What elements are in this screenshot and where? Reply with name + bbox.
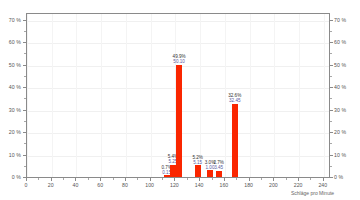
y-tick-minor bbox=[330, 143, 332, 144]
y-tick-right bbox=[330, 155, 333, 156]
y-tick-label-left: 70 % bbox=[9, 17, 21, 23]
bar-rect bbox=[176, 65, 182, 177]
x-tick-minor bbox=[162, 178, 163, 180]
y-tick-right bbox=[330, 177, 333, 178]
x-tick-label: 160 bbox=[220, 182, 229, 188]
x-tick-label: 200 bbox=[269, 182, 278, 188]
y-tick-label-left: 20 % bbox=[9, 129, 21, 135]
y-tick-label-right: 60 % bbox=[334, 39, 346, 45]
bar-rect bbox=[216, 171, 222, 177]
x-tick-minor bbox=[137, 178, 138, 180]
x-tick bbox=[100, 178, 101, 181]
bar: 3.0%1.00 bbox=[207, 170, 213, 177]
x-tick-label: 220 bbox=[294, 182, 303, 188]
bar-label: 2.7%3.45 bbox=[213, 160, 223, 170]
x-tick bbox=[150, 178, 151, 181]
y-tick-minor bbox=[330, 31, 332, 32]
x-tick bbox=[199, 178, 200, 181]
x-tick-minor bbox=[310, 178, 311, 180]
x-tick-label: 180 bbox=[244, 182, 253, 188]
x-tick-minor bbox=[236, 178, 237, 180]
bar-label: 32.6%32.45 bbox=[228, 93, 241, 103]
y-tick-label-right: 30 % bbox=[334, 107, 346, 113]
x-tick bbox=[51, 178, 52, 181]
x-tick-minor bbox=[113, 178, 114, 180]
bar: 32.6%32.45 bbox=[232, 104, 238, 177]
y-tick-label-right: 0 % bbox=[334, 174, 343, 180]
y-tick-left bbox=[23, 65, 26, 66]
bar: 5.2%5.15 bbox=[195, 165, 201, 177]
bar-label-value: 32.45 bbox=[228, 98, 241, 103]
x-axis-title: Schläge pro Minute bbox=[291, 190, 334, 196]
bar-rect bbox=[195, 165, 201, 177]
y-tick-minor bbox=[330, 166, 332, 167]
bar: 49.9%50.10 bbox=[176, 65, 182, 177]
y-tick-right bbox=[330, 65, 333, 66]
x-tick bbox=[174, 178, 175, 181]
x-tick-label: 20 bbox=[48, 182, 54, 188]
bar-label-value: 50.10 bbox=[173, 59, 186, 64]
bar-rect bbox=[232, 104, 238, 177]
x-tick bbox=[249, 178, 250, 181]
x-tick-label: 100 bbox=[145, 182, 154, 188]
y-tick-minor bbox=[330, 76, 332, 77]
x-tick-label: 120 bbox=[170, 182, 179, 188]
y-tick-left bbox=[23, 155, 26, 156]
y-tick-minor bbox=[24, 166, 26, 167]
y-tick-label-left: 0 % bbox=[12, 174, 21, 180]
y-tick-left bbox=[23, 132, 26, 133]
y-tick-label-right: 20 % bbox=[334, 129, 346, 135]
x-tick-minor bbox=[88, 178, 89, 180]
y-tick-left bbox=[23, 87, 26, 88]
x-tick-minor bbox=[63, 178, 64, 180]
bar-label: 49.9%50.10 bbox=[173, 54, 186, 64]
y-tick-minor bbox=[24, 121, 26, 122]
y-tick-label-left: 30 % bbox=[9, 107, 21, 113]
bar-label: 5.2%5.15 bbox=[192, 155, 202, 165]
y-tick-label-left: 60 % bbox=[9, 39, 21, 45]
bars-layer: 0.7%0.155.4%5.2549.9%50.105.2%5.153.0%1.… bbox=[27, 13, 329, 177]
y-tick-minor bbox=[330, 121, 332, 122]
y-tick-right bbox=[330, 87, 333, 88]
y-tick-left bbox=[23, 42, 26, 43]
y-tick-minor bbox=[24, 98, 26, 99]
y-tick-minor bbox=[24, 31, 26, 32]
x-tick-label: 240 bbox=[318, 182, 327, 188]
bar: 2.7%3.45 bbox=[216, 171, 222, 177]
x-tick-minor bbox=[261, 178, 262, 180]
y-tick-minor bbox=[24, 76, 26, 77]
y-axis-right-line bbox=[329, 13, 330, 177]
bar-label-value: 5.15 bbox=[192, 160, 202, 165]
bar-label-value: 3.45 bbox=[213, 165, 223, 170]
x-tick-label: 80 bbox=[122, 182, 128, 188]
y-tick-label-right: 70 % bbox=[334, 17, 346, 23]
y-tick-label-left: 50 % bbox=[9, 62, 21, 68]
y-tick-minor bbox=[330, 98, 332, 99]
y-tick-minor bbox=[24, 53, 26, 54]
x-tick-minor bbox=[38, 178, 39, 180]
y-tick-left bbox=[23, 110, 26, 111]
x-tick-label: 140 bbox=[195, 182, 204, 188]
y-tick-label-left: 10 % bbox=[9, 152, 21, 158]
x-tick bbox=[323, 178, 324, 181]
y-tick-label-right: 50 % bbox=[334, 62, 346, 68]
y-tick-right bbox=[330, 110, 333, 111]
x-tick bbox=[298, 178, 299, 181]
y-tick-minor bbox=[330, 53, 332, 54]
y-tick-left bbox=[23, 20, 26, 21]
y-tick-label-right: 10 % bbox=[334, 152, 346, 158]
y-tick-minor bbox=[24, 143, 26, 144]
y-tick-label-left: 40 % bbox=[9, 84, 21, 90]
x-tick-minor bbox=[286, 178, 287, 180]
y-tick-right bbox=[330, 20, 333, 21]
x-tick bbox=[125, 178, 126, 181]
bar-rect bbox=[207, 170, 213, 177]
histogram-chart: 0.7%0.155.4%5.2549.9%50.105.2%5.153.0%1.… bbox=[0, 0, 360, 200]
x-tick-label: 40 bbox=[73, 182, 79, 188]
x-tick-minor bbox=[212, 178, 213, 180]
x-tick bbox=[224, 178, 225, 181]
x-tick-minor bbox=[187, 178, 188, 180]
x-tick-label: 60 bbox=[97, 182, 103, 188]
y-tick-right bbox=[330, 132, 333, 133]
x-axis-line bbox=[26, 177, 330, 178]
